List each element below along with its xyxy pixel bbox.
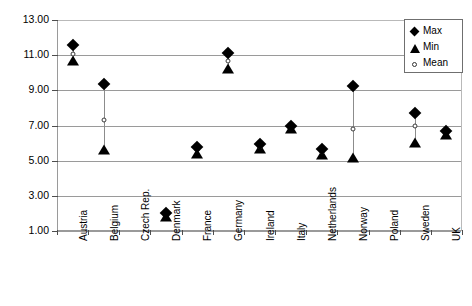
y-tick-label: 13.00 [5,14,49,24]
x-category-label: Ireland [265,171,277,241]
x-category-label: UK [451,171,463,241]
y-tick-label: 9.00 [5,84,49,94]
data-point-min [409,138,421,148]
x-category-label: Belgium [109,171,121,241]
y-tick-label: 5.00 [5,155,49,165]
y-tick-label: 11.00 [5,49,49,59]
x-tick-mark [57,230,58,235]
legend-label-mean: Mean [422,57,448,69]
open-circle-icon [409,57,422,70]
data-point-mean [350,127,355,132]
legend-label-max: Max [422,25,442,37]
data-point-min [222,64,234,74]
y-tick-mark [52,55,58,56]
x-category-label: Italy [296,171,308,241]
x-category-label: Austria [78,171,90,241]
data-point-min [98,145,110,155]
x-category-label: Netherlands [327,171,339,241]
y-tick-mark [52,90,58,91]
x-category-label: Norway [358,171,370,241]
data-point-min [67,56,79,66]
x-category-label: Germany [233,171,245,241]
y-tick-mark [52,161,58,162]
chart-legend: Max Min Mean [404,19,463,73]
chart-container: Cost per DDD in euros 13.0011.009.007.00… [0,0,472,306]
gridline [58,90,461,91]
gridline [58,126,461,127]
y-tick-mark [52,126,58,127]
legend-label-min: Min [422,41,439,53]
data-point-min [347,153,359,163]
legend-item-mean: Mean [409,55,462,71]
x-category-label: Poland [389,171,401,241]
y-tick-label: 3.00 [5,190,49,200]
data-point-mean [413,123,418,128]
x-category-label: France [202,171,214,241]
x-category-label: Czech Rep. [140,171,152,241]
legend-item-min: Min [409,39,462,55]
data-point-mean [70,52,75,57]
triangle-icon [409,41,422,54]
data-point-mean [226,59,231,64]
y-tick-label: 7.00 [5,120,49,130]
gridline [58,55,461,56]
data-point-mean [101,118,106,123]
y-tick-label: 1.00 [5,225,49,235]
range-connector [353,86,354,158]
gridline [58,161,461,162]
y-tick-mark [52,196,58,197]
y-tick-mark [52,20,58,21]
x-category-label: Denmark [171,171,183,241]
x-category-label: Sweden [420,171,432,241]
diamond-icon [409,25,422,38]
legend-item-max: Max [409,23,462,39]
